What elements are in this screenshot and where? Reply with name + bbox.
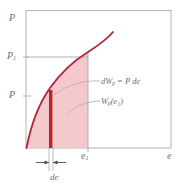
de-arrow-left-head	[45, 161, 50, 165]
differential-work-strip	[49, 90, 52, 148]
annotation-dwp-base: dW	[101, 76, 112, 86]
x-axis-title: e	[167, 150, 171, 161]
de-arrow-right-head	[53, 161, 58, 165]
annotation-dwp-rest: = P de	[115, 76, 140, 86]
plastic-work-diagram: P P1 P e1 e de dWp = P de Wp(e₁)	[0, 0, 182, 191]
y-tick-label-p1: P1	[7, 50, 16, 61]
diagram-canvas	[0, 0, 182, 191]
shaded-work-area	[27, 52, 89, 148]
annotation-wp-rest: (e₁)	[111, 96, 123, 106]
x-tick-label-e1: e1	[81, 150, 89, 161]
y-tick-label-p: P	[9, 89, 15, 100]
x-tick-e1-subscript: 1	[85, 154, 88, 161]
de-dimension-label: de	[50, 172, 59, 182]
annotation-total-work: Wp(e₁)	[101, 96, 123, 106]
y-axis-title: P	[9, 12, 15, 23]
y-tick-p1-subscript: 1	[13, 54, 16, 61]
annotation-differential-work: dWp = P de	[101, 76, 140, 86]
